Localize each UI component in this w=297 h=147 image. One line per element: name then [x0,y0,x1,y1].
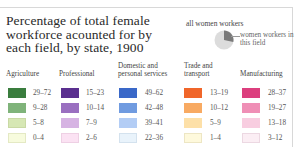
col-head-line1: Domestic and [118,62,167,70]
swatch-manufacturing-1 [242,103,260,113]
range-label: 9–28 [33,104,47,112]
swatch-trade-1 [184,103,202,113]
swatch-agriculture-0 [8,88,26,98]
swatch-professional-3 [61,133,79,143]
col-head-domestic: Domestic and personal services [118,62,167,78]
pie-key-field-label: women workers in this field [240,31,297,47]
range-label: 2–6 [86,134,97,142]
range-label: 39–41 [145,119,163,127]
chart-title: Percentage of total female workforce aco… [6,14,176,55]
range-label: 7–9 [86,119,97,127]
swatch-domestic-1 [119,103,137,113]
range-label: 1–4 [210,134,221,142]
swatch-trade-3 [184,133,202,143]
swatch-domestic-2 [119,118,137,128]
swatch-agriculture-1 [8,103,26,113]
range-label: 13–19 [210,89,228,97]
swatch-trade-0 [184,88,202,98]
range-label: 19–27 [268,104,286,112]
range-label: 28–37 [268,89,286,97]
swatch-manufacturing-3 [242,133,260,143]
col-head-line2: Professional [59,70,95,78]
range-label: 49–62 [145,89,163,97]
col-head-line1: Trade and [184,62,213,70]
pie-key-icon [214,30,234,50]
col-head-trade: Trade and transport [184,62,213,78]
col-head-line2: transport [184,70,213,78]
swatch-agriculture-3 [8,133,26,143]
col-head-agriculture: Agriculture [6,62,39,78]
swatch-professional-2 [61,118,79,128]
range-label: 5–8 [33,119,44,127]
swatch-domestic-3 [119,133,137,143]
pie-key-all-label: all women workers [186,19,243,28]
pie-key-field-text: women workers in this field [240,31,294,47]
range-label: 42–48 [145,104,163,112]
col-head-line2: Manufacturing [240,70,283,78]
range-label: 22–36 [145,134,163,142]
range-label: 10–12 [210,104,228,112]
swatch-manufacturing-2 [242,118,260,128]
col-head-line2: personal services [118,70,167,78]
range-label: 0–4 [33,134,44,142]
range-label: 29–72 [33,89,51,97]
swatch-agriculture-2 [8,118,26,128]
swatch-trade-2 [184,118,202,128]
swatch-manufacturing-0 [242,88,260,98]
range-label: 3–12 [268,134,282,142]
range-label: 5–9 [210,119,221,127]
pie-key-leader [231,36,240,37]
range-label: 13–18 [268,119,286,127]
col-head-line2: Agriculture [6,70,39,78]
col-head-professional: Professional [59,62,95,78]
swatch-domestic-0 [119,88,137,98]
swatch-professional-0 [61,88,79,98]
range-label: 10–14 [86,104,104,112]
range-label: 15–23 [86,89,104,97]
swatch-professional-1 [61,103,79,113]
col-head-manufacturing: Manufacturing [240,62,283,78]
